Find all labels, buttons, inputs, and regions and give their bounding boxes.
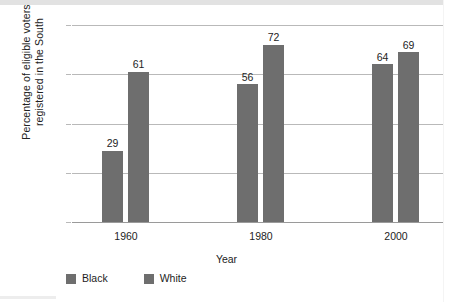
bar-value-label: 56 [229,72,266,83]
bar-rect [128,72,149,222]
legend: Black White [66,273,187,284]
y-axis-title: Percentage of eligible voters registered… [16,0,50,152]
legend-swatch-icon [144,274,154,284]
x-tick-label-1960: 1960 [91,230,161,242]
legend-item-black[interactable]: Black [66,273,108,284]
bar-rect [263,45,284,222]
plot-area: 29 61 56 72 64 [72,25,443,222]
axis-baseline-0 [72,222,443,223]
tick-stub-0 [66,222,71,223]
bar-rect [237,84,258,222]
bar-rect [398,52,419,222]
x-axis-title-text: Year [216,253,237,265]
bar-value-label: 29 [94,138,131,149]
bar-value-label: 72 [255,32,292,43]
x-axis-title: Year [0,253,461,265]
y-axis-title-line-1: Percentage of eligible voters [20,4,33,139]
x-tick-label-2000: 2000 [361,230,431,242]
tick-stub-20 [66,173,71,174]
bar-value-label: 69 [390,40,427,51]
legend-label: Black [82,273,108,284]
tick-stub-80 [66,25,71,26]
legend-label: White [160,273,187,284]
bar-rect [372,64,393,222]
tick-stub-60 [66,74,71,75]
bar-group-1960: 29 61 [102,25,150,222]
legend-item-white[interactable]: White [144,273,187,284]
bar-value-label: 64 [364,52,401,63]
x-tick-label-1980: 1980 [226,230,296,242]
y-axis-title-line-2: registered in the South [33,18,46,126]
tick-stub-40 [66,124,71,125]
bar-group-1980: 56 72 [237,25,285,222]
bar-group-2000: 64 69 [372,25,420,222]
bar-chart-figure: Percentage of eligible voters registered… [0,0,461,302]
legend-swatch-icon [66,274,76,284]
bar-value-label: 61 [120,59,157,70]
bar-rect [102,151,123,222]
